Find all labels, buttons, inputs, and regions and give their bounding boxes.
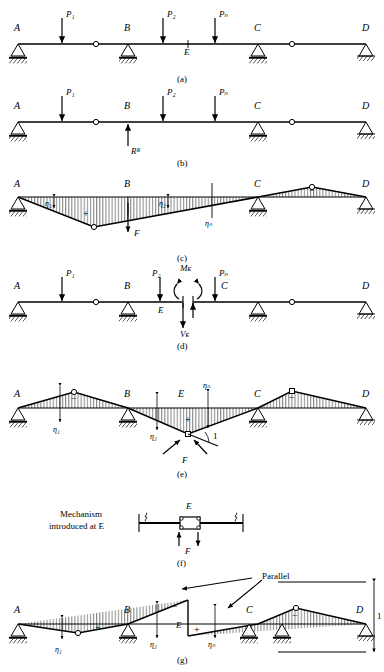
sign-plus-e: + — [185, 414, 191, 425]
support-d-B — [119, 302, 137, 321]
load-label-Pn: Pₙ — [219, 9, 229, 19]
ordinate-label-eta2-g: η₂ — [150, 640, 157, 649]
parallel-annotation: Parallel — [262, 571, 290, 581]
support-c-D — [357, 197, 375, 214]
support-a-C — [249, 44, 267, 63]
load-label-Pn: Pₙ — [219, 268, 229, 278]
node-label-C: C — [254, 22, 261, 33]
node-label-A: A — [14, 604, 20, 615]
support-d-D — [357, 302, 375, 319]
load-label-P2: P₂ — [167, 9, 176, 19]
node-label-D: D — [356, 604, 363, 615]
force-arrow-F-right-e — [194, 440, 207, 454]
load-label-Pn: Pₙ — [219, 87, 229, 97]
hinge-icon — [93, 41, 98, 46]
node-label-A: A — [14, 22, 20, 33]
ordinate-label-eta1-c: η₁ — [45, 199, 52, 208]
panel-d — [9, 277, 375, 328]
support-a-B — [119, 44, 137, 63]
node-label-B: B — [124, 388, 130, 399]
mechanism-note-line2: introduced at E — [49, 521, 104, 531]
sign-minus-g-1: − — [172, 601, 178, 612]
ordinate-label-eta2-e: η₂ — [150, 432, 157, 441]
ordinate-label-eta1-g: η₁ — [55, 645, 62, 654]
node-label-A: A — [14, 178, 20, 189]
shear-label-VE: Vᴇ — [180, 329, 189, 339]
ordinate-label-etan-e: ηₙ — [203, 381, 210, 390]
hinge-icon — [75, 630, 80, 635]
sign-minus-g-2: − — [292, 610, 298, 621]
load-label-P1: P₁ — [66, 268, 75, 278]
caption-g: (g) — [177, 655, 188, 665]
node-label-A: A — [14, 388, 20, 399]
sign-minus-e-2: − — [289, 392, 295, 403]
structural-influence-line-figure: A B C D E P₁ P₂ Pₙ (a) A B C D P₁ P₂ Pₙ … — [0, 0, 384, 672]
caption-a: (a) — [177, 74, 187, 84]
support-g-B — [119, 624, 137, 643]
moment-arrow-left — [174, 284, 179, 299]
sign-minus-e-1: − — [71, 393, 77, 404]
support-b-A — [9, 122, 27, 141]
node-label-E: E — [184, 47, 190, 57]
sign-plus-g-1: + — [95, 622, 101, 633]
break-symbol-right — [235, 513, 237, 521]
parallel-leader-left — [182, 578, 252, 589]
node-label-E: E — [158, 305, 164, 315]
node-label-A: A — [14, 100, 20, 111]
support-e-A — [9, 408, 27, 427]
node-label-E-g: E — [176, 620, 182, 630]
node-label-C: C — [221, 280, 228, 291]
panel-b — [9, 96, 375, 146]
figure-svg — [0, 0, 384, 672]
sign-minus-c: − — [309, 185, 315, 196]
node-label-D: D — [362, 178, 369, 189]
support-b-D — [357, 122, 375, 139]
support-b-C — [249, 122, 267, 141]
ordinate-label-eta2-c: η₂ — [159, 199, 166, 208]
force-label-F-e: F — [182, 455, 188, 465]
caption-e: (e) — [177, 469, 187, 479]
node-label-C: C — [246, 604, 253, 615]
load-label-P1: P₁ — [66, 9, 75, 19]
moment-label-ME: Mᴇ — [180, 263, 191, 273]
node-label-E-f: E — [186, 501, 192, 511]
moment-arrow-right — [197, 284, 202, 299]
panel-f — [139, 513, 243, 546]
node-label-B: B — [124, 280, 130, 291]
panel-c — [9, 183, 375, 232]
support-a-D — [357, 44, 375, 61]
break-symbol-left — [145, 513, 147, 521]
ordinate-label-etan-g: ηₙ — [208, 640, 215, 649]
node-label-A: A — [14, 280, 20, 291]
support-e-D — [357, 408, 375, 425]
load-label-P1: P₁ — [66, 87, 75, 97]
node-label-B: B — [124, 604, 130, 615]
node-label-D: D — [362, 388, 369, 399]
hinge-icon — [180, 517, 183, 520]
unit-label-g: 1 — [377, 611, 382, 621]
caption-f: (f) — [177, 558, 186, 568]
caption-b: (b) — [177, 158, 188, 168]
node-label-C: C — [254, 388, 261, 399]
ordinate-label-etan-c: ηₙ — [205, 219, 212, 228]
mechanism-note-line1: Mechanism — [60, 509, 102, 519]
ordinate-label-eta1-e: η₁ — [53, 425, 60, 434]
node-label-C: C — [254, 100, 261, 111]
force-label-F-c: F — [134, 228, 140, 238]
force-arrow-F-left-e — [163, 440, 180, 454]
hinge-icon — [180, 526, 183, 529]
hinge-icon — [197, 526, 200, 529]
panel-g — [9, 578, 375, 652]
support-c-C — [249, 197, 267, 216]
reaction-label-RB: Rᴮ — [131, 146, 140, 156]
parallel-leader-right — [228, 580, 262, 608]
node-label-D: D — [362, 280, 369, 291]
node-label-C: C — [254, 178, 261, 189]
sign-plus-g-2: + — [194, 624, 200, 635]
unit-label-e: 1 — [213, 431, 218, 441]
hinge-icon — [93, 119, 98, 124]
hinge-icon — [93, 299, 98, 304]
node-label-B: B — [124, 100, 130, 111]
panel-a — [9, 18, 375, 63]
support-g-A — [9, 624, 27, 643]
